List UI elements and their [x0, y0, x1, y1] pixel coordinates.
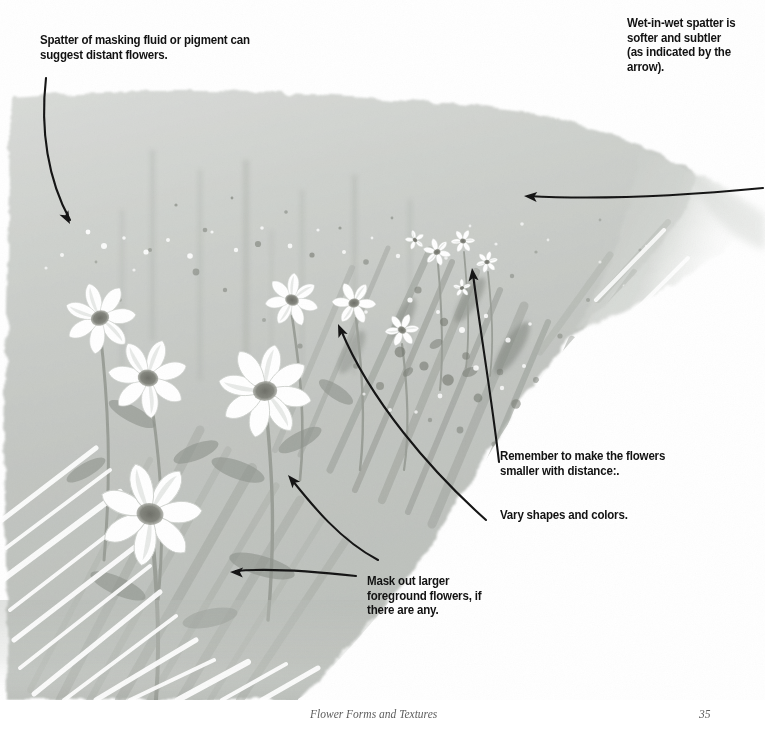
page-footer: Flower Forms and Textures 35 [0, 700, 765, 734]
footer-page-number: 35 [699, 708, 711, 720]
annotation-wet-in-wet-text: Wet-in-wet spatter is softer and subtler… [627, 16, 739, 74]
page-canvas: Spatter of masking fluid or pigment can … [0, 0, 765, 734]
footer-chapter-title: Flower Forms and Textures [310, 708, 437, 720]
annotation-remember-text: Remember to make the flowers smaller wit… [500, 449, 700, 478]
annotation-spatter-text: Spatter of masking fluid or pigment can … [40, 33, 282, 62]
annotation-mask-text: Mask out larger foreground flowers, if t… [367, 574, 507, 618]
annotation-vary-text: Vary shapes and colors. [500, 508, 700, 523]
